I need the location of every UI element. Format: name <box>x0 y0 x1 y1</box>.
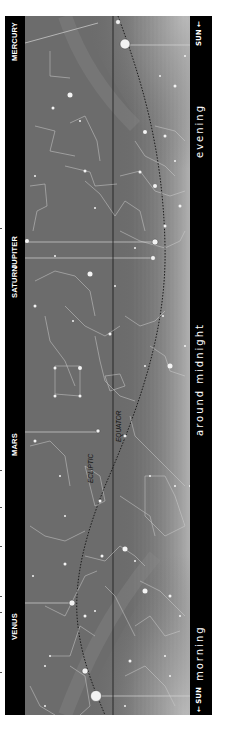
margin-tick <box>0 672 2 673</box>
margin-tick <box>0 507 2 508</box>
equator-label: EQUATOR <box>115 410 122 442</box>
arrow-left-icon: ← <box>195 21 203 27</box>
star-map <box>25 16 190 715</box>
planet-marker-large-bottom <box>91 691 102 702</box>
sun-text: SUN <box>195 687 203 704</box>
planet-label-saturn: SATURN <box>10 266 19 298</box>
sun-label-top: SUN ← <box>195 21 203 46</box>
planet-label-band: MERCURY SATURN JUPITER MARS VENUS <box>5 16 25 715</box>
planet-marker-moon <box>82 668 88 674</box>
planet-label-mercury: MERCURY <box>10 22 19 61</box>
planet-marker-venus <box>69 600 75 606</box>
planet-marker-saturn <box>151 256 156 261</box>
time-label-band: SUN ← evening around midnight morning ← … <box>190 16 212 715</box>
planet-label-mars: MARS <box>10 433 19 456</box>
ecliptic-label: ECLIPTIC <box>87 454 94 483</box>
margin-tick <box>0 546 2 547</box>
margin-tick <box>0 596 2 597</box>
planet-marker-small-top <box>116 20 121 25</box>
margin-tick <box>0 612 2 613</box>
margin-tick <box>0 470 2 471</box>
sky-chart: MERCURY SATURN JUPITER MARS VENUS <box>5 16 212 715</box>
sun-text: SUN <box>195 29 203 46</box>
margin-tick <box>0 228 2 229</box>
time-label-morning: morning <box>194 625 205 681</box>
planet-label-jupiter: JUPITER <box>10 236 19 269</box>
planet-marker-mercury <box>120 39 130 49</box>
sun-label-bottom: ← SUN <box>195 687 203 712</box>
planet-marker-mars <box>96 429 100 433</box>
time-label-evening: evening <box>194 104 205 158</box>
planet-marker-jupiter <box>152 239 158 245</box>
arrow-left-icon: ← <box>195 706 203 712</box>
time-label-midnight: around midnight <box>194 323 205 436</box>
sky-area: ECLIPTIC EQUATOR <box>25 16 190 715</box>
planet-label-venus: VENUS <box>10 613 19 640</box>
